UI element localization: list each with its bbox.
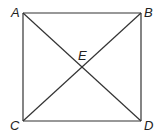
label-a: A <box>10 5 20 20</box>
label-b: B <box>144 5 153 20</box>
square-diagonals-figure: A B C D E <box>0 0 164 135</box>
label-e: E <box>78 48 87 63</box>
label-d: D <box>144 118 153 133</box>
label-c: C <box>10 118 20 133</box>
geometry-diagram: A B C D E <box>0 0 164 135</box>
